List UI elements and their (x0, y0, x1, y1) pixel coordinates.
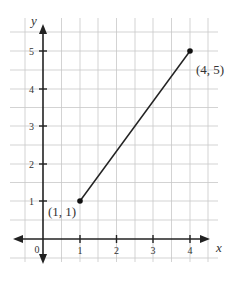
endpoint-a (77, 198, 83, 204)
x-axis-right-arrow-icon (200, 235, 210, 243)
y-axis (39, 24, 47, 264)
point-label-a: (1, 1) (48, 204, 76, 219)
tick-labels: 0 1 2 3 4 1 2 3 4 5 (29, 46, 193, 256)
x-tick-label-1: 1 (78, 245, 83, 256)
origin-label: 0 (35, 244, 40, 255)
x-tick-label-4: 4 (188, 245, 193, 256)
y-tick-label-5: 5 (29, 46, 34, 57)
point-label-b: (4, 5) (196, 62, 224, 77)
coordinate-plane: 0 1 2 3 4 1 2 3 4 5 x y (1, 1) (4, 5) (0, 0, 235, 284)
y-axis-down-arrow-icon (39, 254, 47, 264)
y-axis-up-arrow-icon (39, 24, 47, 34)
y-tick-label-3: 3 (29, 121, 34, 132)
y-axis-label: y (29, 13, 37, 28)
y-tick-label-1: 1 (29, 196, 34, 207)
y-tick-label-2: 2 (29, 159, 34, 170)
y-tick-label-4: 4 (29, 84, 34, 95)
x-tick-label-2: 2 (114, 245, 119, 256)
endpoint-b (187, 48, 193, 54)
x-axis-label: x (215, 240, 222, 255)
x-axis-left-arrow-icon (13, 235, 23, 243)
x-tick-label-3: 3 (151, 245, 156, 256)
